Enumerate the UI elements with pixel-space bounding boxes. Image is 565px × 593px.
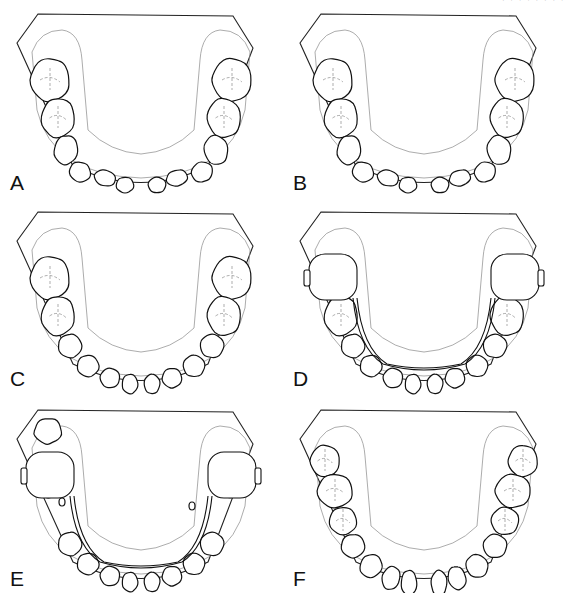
tooth-right-6 <box>431 177 449 193</box>
tooth-left-5 <box>94 170 115 186</box>
tooth-left-3 <box>59 334 82 358</box>
tooth-right-5 <box>466 554 488 577</box>
tooth-right-5 <box>162 369 182 389</box>
tooth-right-2 <box>495 474 530 507</box>
tooth-right-3 <box>483 334 507 357</box>
molar-band-left <box>309 254 357 300</box>
tooth-right-1 <box>212 256 251 299</box>
tooth-right-1 <box>495 58 534 101</box>
tooth-left-2 <box>41 297 74 336</box>
panel-c: C <box>0 198 282 395</box>
tooth-left-3 <box>54 136 78 165</box>
tooth-right-2 <box>207 296 240 335</box>
dental-arch-drawing-f <box>283 396 565 593</box>
tooth-right-6 <box>144 374 160 394</box>
panel-f: F <box>283 396 565 593</box>
buccal-tube-left <box>21 468 27 484</box>
tooth-right-3 <box>204 135 228 164</box>
tooth-right-6 <box>148 177 166 193</box>
panel-e: E <box>0 396 282 593</box>
tooth-right-1 <box>212 58 251 101</box>
tooth-left-4 <box>77 553 99 575</box>
tooth-left-7 <box>401 570 417 593</box>
tooth-right-5 <box>166 170 187 186</box>
tooth-right-2 <box>490 98 523 137</box>
tooth-left-5 <box>100 368 119 388</box>
tooth-right-3 <box>200 532 224 555</box>
panel-a: A <box>0 0 282 197</box>
panel-d: D <box>283 198 565 395</box>
tooth-left-5 <box>100 566 119 586</box>
tooth-right-3 <box>487 135 511 164</box>
dental-arch-drawing-a <box>0 0 282 197</box>
tooth-right-7 <box>431 570 447 593</box>
panel-label-e: E <box>10 568 24 589</box>
tooth-left-3 <box>59 532 82 556</box>
buccal-tube-right <box>255 468 261 484</box>
tooth-right-5 <box>162 567 182 587</box>
panel-label-a: A <box>10 172 24 193</box>
tooth-left-4 <box>69 162 90 182</box>
dental-arch-drawing-c <box>0 198 282 395</box>
tooth-right-5 <box>445 369 465 389</box>
tooth-right-5 <box>449 170 470 186</box>
panel-label-c: C <box>10 368 25 389</box>
tooth-right-4 <box>474 162 495 182</box>
tooth-left-2 <box>41 99 74 138</box>
teeth-group <box>30 256 251 394</box>
molar-band-right <box>208 452 256 498</box>
tooth-left-5 <box>383 368 402 388</box>
dental-arch-drawing-e <box>0 396 282 593</box>
tooth-left-5 <box>360 555 382 578</box>
molar-band-right <box>491 254 539 300</box>
tooth-right-2 <box>207 98 240 137</box>
tooth-right-3 <box>200 334 224 357</box>
implant-marker-right <box>189 502 195 510</box>
tooth-left-1 <box>310 445 339 476</box>
tooth-left-5 <box>377 170 398 186</box>
tooth-right-4 <box>183 355 205 376</box>
panel-label-b: B <box>293 172 307 193</box>
tooth-right-6 <box>144 572 160 592</box>
teeth-group <box>310 445 537 593</box>
buccal-tube-right <box>538 270 544 286</box>
tooth-right-4 <box>191 162 212 182</box>
tooth-right-4 <box>183 553 205 574</box>
tooth-left-6 <box>399 177 417 193</box>
tooth-left-4 <box>77 355 99 377</box>
implant-marker-left <box>59 498 65 506</box>
buccal-tube-left <box>304 270 310 286</box>
panel-b: B <box>283 0 565 197</box>
tooth-left-3 <box>342 334 365 358</box>
tooth-left-4 <box>352 162 373 182</box>
molar-band-left <box>26 452 74 498</box>
tooth-left-2 <box>324 99 357 138</box>
tooth-right-6 <box>448 567 466 590</box>
tooth-left-4 <box>360 355 382 377</box>
tooth-right-4 <box>483 534 507 557</box>
dental-arch-drawing-b <box>283 0 565 197</box>
tooth-left-6 <box>405 374 421 394</box>
tooth-right-4 <box>466 355 488 376</box>
tooth-left-2 <box>324 297 357 336</box>
tooth-left-4 <box>341 535 365 558</box>
erupting-molar <box>34 419 62 445</box>
tooth-left-2 <box>317 475 352 508</box>
tooth-right-6 <box>427 374 443 394</box>
teeth-group <box>313 58 534 193</box>
panel-label-f: F <box>293 568 306 589</box>
dental-arch-drawing-d <box>283 198 565 395</box>
tooth-left-6 <box>122 572 138 592</box>
tooth-left-3 <box>337 136 361 165</box>
teeth-group <box>30 58 251 193</box>
tooth-left-6 <box>382 566 400 589</box>
tooth-left-6 <box>116 177 134 193</box>
panel-label-d: D <box>293 368 308 389</box>
tooth-left-6 <box>122 374 138 394</box>
tooth-right-1 <box>508 446 537 477</box>
